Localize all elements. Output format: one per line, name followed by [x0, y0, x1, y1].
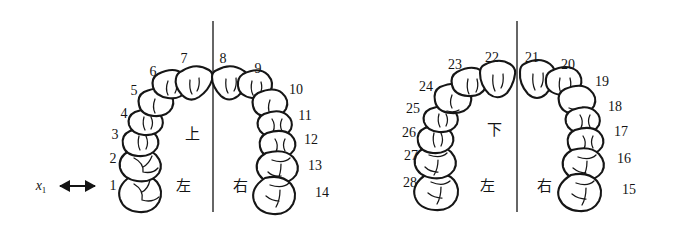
upper-tooth-7[interactable] — [176, 66, 213, 99]
x1-variable-label: x1 — [35, 178, 47, 195]
double-headed-arrow-icon — [59, 180, 96, 192]
lower-tooth-label-22: 22 — [485, 50, 499, 65]
lower-tooth-label-20: 20 — [561, 57, 575, 72]
upper-tooth-label-5: 5 — [131, 83, 138, 98]
lower-arch: 28 27 26 25 24 23 22 21 20 19 18 17 16 1… — [402, 21, 636, 212]
upper-tooth-label-3: 3 — [112, 127, 119, 142]
lower-tooth-label-28: 28 — [403, 175, 417, 190]
lower-tooth-label-18: 18 — [608, 99, 622, 114]
lower-left-label: 左 — [480, 177, 495, 195]
upper-arch: 1 2 3 4 5 6 7 8 9 10 11 12 13 14 上 左 右 — [110, 21, 330, 214]
lower-tooth-label-15: 15 — [622, 182, 636, 197]
lower-tooth-label-23: 23 — [448, 57, 462, 72]
upper-tooth-label-4: 4 — [121, 106, 128, 121]
lower-tooth-label-21: 21 — [525, 50, 539, 65]
upper-tooth-label-7: 7 — [181, 51, 188, 66]
upper-tooth-label-8: 8 — [220, 51, 227, 66]
lower-tooth-label-26: 26 — [402, 125, 416, 140]
upper-tooth-label-2: 2 — [110, 151, 117, 166]
dental-arch-figure: 1 2 3 4 5 6 7 8 9 10 11 12 13 14 上 左 右 — [0, 0, 677, 226]
lower-tooth-label-17: 17 — [614, 124, 628, 139]
upper-jaw-label: 上 — [185, 125, 200, 143]
lower-right-label: 右 — [537, 177, 552, 195]
lower-tooth-label-19: 19 — [595, 74, 609, 89]
x1-annotation: x1 — [35, 178, 96, 195]
lower-tooth-label-16: 16 — [617, 151, 631, 166]
upper-tooth-14[interactable] — [253, 177, 295, 214]
upper-tooth-label-13: 13 — [308, 158, 322, 173]
lower-jaw-label: 下 — [487, 121, 502, 139]
upper-tooth-label-11: 11 — [298, 108, 311, 123]
upper-tooth-label-10: 10 — [289, 82, 303, 97]
upper-tooth-label-9: 9 — [255, 61, 262, 76]
upper-tooth-label-12: 12 — [304, 132, 318, 147]
upper-tooth-label-6: 6 — [150, 64, 157, 79]
lower-tooth-15[interactable] — [558, 174, 601, 211]
upper-left-label: 左 — [176, 177, 191, 195]
upper-tooth-label-14: 14 — [315, 185, 329, 200]
upper-tooth-label-1: 1 — [110, 178, 117, 193]
upper-right-label: 右 — [233, 177, 248, 195]
lower-tooth-22[interactable] — [480, 61, 515, 98]
lower-tooth-label-25: 25 — [406, 101, 420, 116]
lower-tooth-label-24: 24 — [419, 79, 433, 94]
lower-tooth-label-27: 27 — [404, 148, 418, 163]
